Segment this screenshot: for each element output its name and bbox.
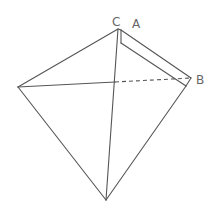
edge-bottom-right (106, 86, 186, 200)
label-C: C (112, 15, 120, 29)
diagram-canvas: C A B (0, 0, 214, 218)
edge-left-bottom (18, 87, 106, 200)
label-B: B (196, 73, 204, 87)
edge-apex-left (18, 29, 118, 87)
edge-A-B (121, 30, 191, 78)
label-A: A (132, 17, 141, 31)
edge-left-center (18, 82, 115, 87)
fold-edge-B (186, 78, 191, 86)
edge-apex-bottom (106, 29, 118, 200)
